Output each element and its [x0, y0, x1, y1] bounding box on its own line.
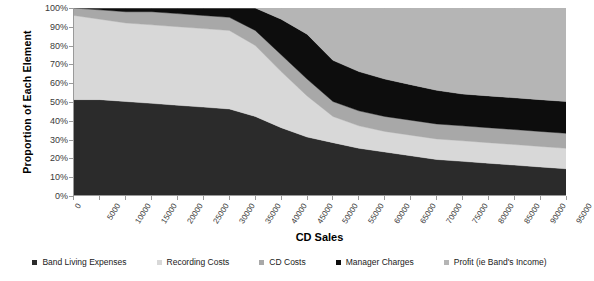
x-axis-tick-label: 15000 — [159, 202, 178, 226]
x-axis-title: CD Sales — [73, 231, 566, 243]
legend-label: Band Living Expenses — [42, 258, 126, 267]
x-axis-tick-label: 55000 — [367, 202, 386, 226]
x-axis-tick-mark — [488, 196, 489, 200]
legend-item[interactable]: Band Living Expenses — [32, 258, 126, 267]
x-axis-tick-label: 10000 — [133, 202, 152, 226]
x-axis-tick-mark — [177, 196, 178, 200]
x-axis-tick-mark — [307, 196, 308, 200]
legend-swatch-icon — [32, 260, 37, 265]
y-axis-tick-label: 90% — [22, 22, 68, 32]
x-axis-tick-mark — [436, 196, 437, 200]
legend-swatch-icon — [444, 260, 449, 265]
x-axis-tick-label: 20000 — [185, 202, 204, 226]
y-axis-tick-label: 80% — [22, 41, 68, 51]
x-axis-tick-mark — [514, 196, 515, 200]
x-axis-tick-label: 75000 — [471, 202, 490, 226]
x-axis-tick-label: 60000 — [393, 202, 412, 226]
y-axis-tick-label: 30% — [22, 135, 68, 145]
y-axis-tick-label: 50% — [22, 97, 68, 107]
x-axis-tick-label: 25000 — [211, 202, 230, 226]
x-axis-tick-mark — [566, 196, 567, 200]
y-axis-tick-label: 40% — [22, 116, 68, 126]
y-axis-tick-mark — [69, 83, 73, 84]
legend-label: CD Costs — [269, 258, 305, 267]
legend-swatch-icon — [157, 260, 162, 265]
x-axis-tick-label: 0 — [73, 202, 83, 211]
y-axis-tick-mark — [69, 177, 73, 178]
x-axis-tick-labels: 0500010000150002000025000300003500040000… — [0, 200, 579, 230]
x-axis-tick-mark — [384, 196, 385, 200]
x-axis-tick-label: 40000 — [289, 202, 308, 226]
x-axis-tick-mark — [125, 196, 126, 200]
legend-swatch-icon — [259, 260, 264, 265]
x-axis-tick-label: 95000 — [574, 202, 593, 226]
y-axis-tick-mark — [69, 121, 73, 122]
y-axis-tick-mark — [69, 46, 73, 47]
y-axis-tick-mark — [69, 102, 73, 103]
x-axis-tick-mark — [281, 196, 282, 200]
x-axis-tick-label: 70000 — [445, 202, 464, 226]
plot-svg — [74, 8, 566, 195]
x-axis-tick-mark — [151, 196, 152, 200]
y-axis-tick-label: 70% — [22, 59, 68, 69]
x-axis-tick-mark — [73, 196, 74, 200]
x-axis-tick-label: 30000 — [237, 202, 256, 226]
legend-label: Profit (ie Band's Income) — [454, 258, 547, 267]
x-axis-tick-label: 50000 — [341, 202, 360, 226]
x-axis-tick-mark — [255, 196, 256, 200]
x-axis-tick-mark — [358, 196, 359, 200]
x-axis-tick-mark — [462, 196, 463, 200]
x-axis-tick-label: 5000 — [105, 202, 122, 222]
x-axis-tick-mark — [203, 196, 204, 200]
x-axis-tick-label: 90000 — [548, 202, 567, 226]
y-axis-tick-mark — [69, 27, 73, 28]
legend-item[interactable]: CD Costs — [259, 258, 305, 267]
x-axis-tick-mark — [540, 196, 541, 200]
x-axis-tick-label: 45000 — [315, 202, 334, 226]
y-axis-tick-label: 100% — [22, 3, 68, 13]
y-axis-tick-mark — [69, 140, 73, 141]
x-axis-tick-label: 65000 — [419, 202, 438, 226]
x-axis-tick-label: 85000 — [522, 202, 541, 226]
legend-label: Recording Costs — [167, 258, 230, 267]
y-axis-tick-mark — [69, 158, 73, 159]
x-axis-tick-label: 35000 — [263, 202, 282, 226]
x-axis-tick-mark — [332, 196, 333, 200]
plot-area — [73, 8, 566, 196]
chart-legend: Band Living ExpensesRecording CostsCD Co… — [0, 258, 579, 267]
legend-label: Manager Charges — [346, 258, 414, 267]
legend-item[interactable]: Manager Charges — [336, 258, 414, 267]
y-axis-tick-label: 10% — [22, 172, 68, 182]
y-axis-tick-mark — [69, 64, 73, 65]
y-axis-tick-mark — [69, 8, 73, 9]
x-axis-tick-mark — [410, 196, 411, 200]
x-axis-tick-label: 80000 — [497, 202, 516, 226]
legend-item[interactable]: Recording Costs — [157, 258, 230, 267]
legend-item[interactable]: Profit (ie Band's Income) — [444, 258, 547, 267]
x-axis-tick-mark — [99, 196, 100, 200]
y-axis-tick-label: 60% — [22, 78, 68, 88]
y-axis-tick-label: 20% — [22, 153, 68, 163]
x-axis-tick-mark — [229, 196, 230, 200]
y-axis-tick-labels: 0%10%20%30%40%50%60%70%80%90%100% — [22, 8, 68, 196]
legend-swatch-icon — [336, 260, 341, 265]
